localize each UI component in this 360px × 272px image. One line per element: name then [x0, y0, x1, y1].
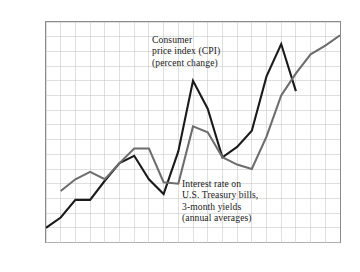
- tbill-annotation-line-3: 3-month yields: [182, 201, 258, 212]
- cpi-annotation-line-1: Consumer: [152, 34, 220, 45]
- tbill-annotation-line-1: Interest rate on: [182, 178, 258, 189]
- tbill-series-annotation: Interest rate on U.S. Treasury bills, 3-…: [182, 178, 258, 224]
- x-axis-labels: [0, 247, 360, 263]
- tbill-annotation-line-2: U.S. Treasury bills,: [182, 189, 258, 200]
- cpi-annotation-line-2: price index (CPI): [152, 45, 220, 56]
- cpi-annotation-line-3: (percent change): [152, 57, 220, 68]
- tbill-annotation-line-4: (annual averages): [182, 212, 258, 223]
- chart-figure: Consumer price index (CPI) (percent chan…: [0, 0, 360, 272]
- cpi-series-annotation: Consumer price index (CPI) (percent chan…: [152, 34, 220, 68]
- y-axis-labels: [0, 0, 43, 272]
